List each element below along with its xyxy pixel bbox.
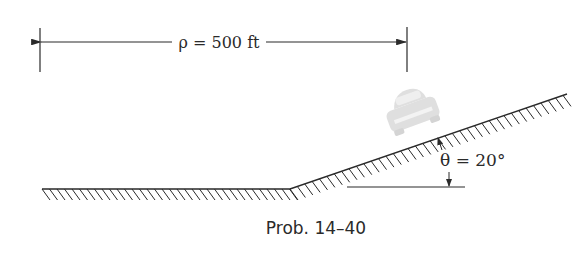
ground-hatch-mark: [200, 189, 208, 200]
ground-hatch-mark: [334, 174, 342, 185]
ground-surface: [42, 94, 567, 189]
ground-hatch-mark: [393, 154, 401, 165]
ground-hatch-mark: [401, 151, 409, 162]
ground-hatch-mark: [95, 189, 103, 200]
angle-indicator: θ = 20°: [347, 138, 505, 187]
ground-hatch-mark: [548, 100, 556, 111]
ground-hatch-mark: [207, 189, 215, 200]
ground-hatch-mark: [57, 189, 65, 200]
ground-hatch-mark: [132, 189, 140, 200]
ground-hatch-mark: [230, 189, 238, 200]
ground-hatch-mark: [497, 118, 505, 129]
figure-caption: Prob. 14–40: [266, 218, 366, 238]
ground-hatch-mark: [533, 105, 541, 116]
ground-hatch-mark: [489, 121, 497, 132]
ground-hatch-mark: [252, 189, 260, 200]
ground-hatch-mark: [125, 189, 133, 200]
ground-hatch-mark: [87, 189, 95, 200]
ground-hatch-mark: [42, 189, 50, 200]
diagram-canvas: ρ = 500 ft θ = 20° Prob. 14–40: [0, 0, 579, 257]
ground-hatch-mark: [415, 146, 423, 157]
ground-hatch-mark: [563, 95, 571, 106]
ground-hatch-mark: [519, 111, 527, 122]
ground-hatch-mark: [408, 149, 416, 160]
ground-hatch-mark: [72, 189, 80, 200]
dimension-label: ρ = 500 ft: [179, 33, 261, 52]
ground-hatch-mark: [305, 184, 313, 195]
ground-profile: [42, 94, 571, 200]
car-icon: [380, 82, 443, 137]
ground-hatch-mark: [215, 189, 223, 200]
ground-hatch-mark: [117, 189, 125, 200]
ground-hatch-mark: [526, 108, 534, 119]
angle-label: θ = 20°: [440, 150, 505, 170]
ground-hatch-mark: [65, 189, 73, 200]
ground-hatch-mark: [177, 189, 185, 200]
ground-hatch-mark: [556, 98, 564, 109]
ground-hatch-mark: [342, 171, 350, 182]
ground-hatch-mark: [192, 189, 200, 200]
ground-hatch-mark: [511, 113, 519, 124]
ground-hatch-mark: [267, 189, 275, 200]
ground-hatch-mark: [356, 166, 364, 177]
ground-hatch-mark: [430, 141, 438, 152]
ground-hatch-mark: [297, 186, 305, 197]
ground-hatch-mark: [452, 133, 460, 144]
ground-hatch-mark: [290, 189, 298, 200]
ground-hatch-mark: [275, 189, 283, 200]
ground-hatch-mark: [260, 189, 268, 200]
ground-hatch-mark: [110, 189, 118, 200]
ground-hatch-mark: [386, 156, 394, 167]
ground-hatch-mark: [349, 169, 357, 180]
ground-hatch-mark: [467, 128, 475, 139]
ground-hatch-mark: [423, 143, 431, 154]
ground-hatch-mark: [185, 189, 193, 200]
ground-hatch-mark: [327, 176, 335, 187]
ground-hatch-mark: [541, 103, 549, 114]
ground-hatch-mark: [155, 189, 163, 200]
ground-hatch-mark: [379, 159, 387, 170]
ground-hatch-mark: [102, 189, 110, 200]
ground-hatch-mark: [504, 116, 512, 127]
ground-hatch-mark: [162, 189, 170, 200]
ground-hatch-mark: [170, 189, 178, 200]
ground-hatch-mark: [474, 126, 482, 137]
ground-hatch-mark: [482, 123, 490, 134]
ground-hatch-mark: [50, 189, 58, 200]
ground-hatch-mark: [445, 136, 453, 147]
ground-hatch-mark: [147, 189, 155, 200]
ground-hatch-mark: [245, 189, 253, 200]
ground-hatch-mark: [282, 189, 290, 200]
radius-dimension: ρ = 500 ft: [40, 27, 407, 72]
ground-hatch-mark: [312, 181, 320, 192]
ground-hatch-mark: [364, 164, 372, 175]
ground-hatch-mark: [320, 179, 328, 190]
ground-hatch-mark: [237, 189, 245, 200]
ground-hatch-mark: [371, 161, 379, 172]
ground-hatch-mark: [140, 189, 148, 200]
ground-hatch-mark: [80, 189, 88, 200]
ground-hatch-mark: [460, 131, 468, 142]
ground-hatch-mark: [222, 189, 230, 200]
